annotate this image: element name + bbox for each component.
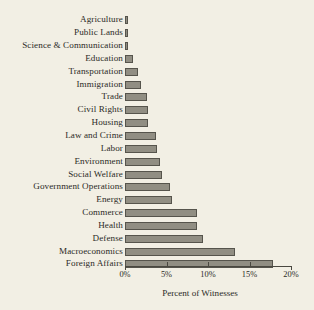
bar: [125, 106, 148, 114]
bar-track: [125, 93, 147, 101]
bar: [125, 93, 147, 101]
bar-track: [125, 171, 162, 179]
bar-row: Public Lands: [0, 27, 314, 40]
bar-row: Civil Rights: [0, 104, 314, 117]
bar: [125, 119, 148, 127]
bar: [125, 196, 172, 204]
bar-track: [125, 106, 148, 114]
bar-track: [125, 42, 128, 50]
bar-category-label: Agriculture: [80, 16, 123, 25]
bar: [125, 222, 197, 230]
bar: [125, 158, 160, 166]
bar-category-label: Civil Rights: [78, 106, 123, 115]
bar-track: [125, 196, 172, 204]
x-axis-title: Percent of Witnesses: [0, 288, 314, 298]
bar-row: Environment: [0, 155, 314, 168]
bar-row: Education: [0, 53, 314, 66]
bar-track: [125, 222, 197, 230]
bar-category-label: Public Lands: [74, 29, 123, 38]
bar-row: Commerce: [0, 207, 314, 220]
bar: [125, 171, 162, 179]
bar: [125, 81, 141, 89]
bar-row: Government Operations: [0, 181, 314, 194]
x-axis-tick-label: 10%: [200, 270, 215, 279]
bar-category-label: Education: [85, 54, 123, 63]
bar-track: [125, 16, 128, 24]
bar-track: [125, 248, 235, 256]
bar: [125, 132, 156, 140]
bar-track: [125, 81, 141, 89]
bar-chart: AgriculturePublic LandsScience & Communi…: [0, 0, 314, 310]
bar: [125, 183, 170, 191]
bar: [125, 260, 273, 268]
bar-category-label: Defense: [93, 234, 124, 243]
bar-category-label: Immigration: [76, 80, 123, 89]
bar-row: Labor: [0, 142, 314, 155]
bar-category-label: Foreign Affairs: [66, 260, 123, 269]
bar-row: Energy: [0, 194, 314, 207]
bar-row: Social Welfare: [0, 168, 314, 181]
x-axis-tick-label: 15%: [242, 270, 257, 279]
bar: [125, 16, 128, 24]
bar-category-label: Labor: [101, 144, 123, 153]
bar: [125, 235, 203, 243]
bar-track: [125, 29, 128, 37]
x-axis-tick-label: 0%: [119, 270, 130, 279]
bar-track: [125, 55, 133, 63]
x-axis-tick-label: 5%: [161, 270, 172, 279]
bar-row: Defense: [0, 232, 314, 245]
bar-row: Macroeconomics: [0, 245, 314, 258]
bar-track: [125, 235, 203, 243]
bar: [125, 29, 128, 37]
bar-row: Housing: [0, 117, 314, 130]
bar-track: [125, 119, 148, 127]
bar-row: Trade: [0, 91, 314, 104]
bar: [125, 209, 197, 217]
bar-rows: AgriculturePublic LandsScience & Communi…: [0, 14, 314, 271]
bar-category-label: Social Welfare: [68, 170, 123, 179]
bar-track: [125, 158, 160, 166]
bar-category-label: Trade: [102, 93, 123, 102]
bar-track: [125, 68, 138, 76]
bar-track: [125, 145, 157, 153]
bar-category-label: Government Operations: [33, 183, 123, 192]
bar-track: [125, 209, 197, 217]
bar-track: [125, 260, 273, 268]
bar-row: Health: [0, 220, 314, 233]
bar-category-label: Health: [98, 221, 123, 230]
plot-area: AgriculturePublic LandsScience & Communi…: [0, 0, 314, 310]
bar-category-label: Environment: [74, 157, 123, 166]
bar-row: Agriculture: [0, 14, 314, 27]
bar: [125, 68, 138, 76]
bar-category-label: Science & Communication: [22, 42, 123, 51]
bar-category-label: Housing: [91, 119, 123, 128]
bar: [125, 248, 235, 256]
x-axis-tick-label: 20%: [283, 270, 298, 279]
bar-row: Law and Crime: [0, 130, 314, 143]
bar: [125, 145, 157, 153]
bar-row: Science & Communication: [0, 40, 314, 53]
x-axis-tick: [250, 262, 251, 267]
bar-category-label: Energy: [96, 196, 123, 205]
bar-category-label: Commerce: [82, 209, 123, 218]
bar: [125, 55, 133, 63]
bar-category-label: Macroeconomics: [59, 247, 123, 256]
bar-row: Foreign Affairs: [0, 258, 314, 271]
bar-row: Immigration: [0, 78, 314, 91]
x-axis-tick: [208, 262, 209, 267]
bar-row: Transportation: [0, 65, 314, 78]
bar: [125, 42, 128, 50]
bar-category-label: Transportation: [68, 67, 123, 76]
x-axis-title-text: Percent of Witnesses: [162, 288, 238, 298]
bar-category-label: Law and Crime: [65, 131, 123, 140]
bar-track: [125, 183, 170, 191]
x-axis-tick: [167, 262, 168, 267]
bar-track: [125, 132, 156, 140]
